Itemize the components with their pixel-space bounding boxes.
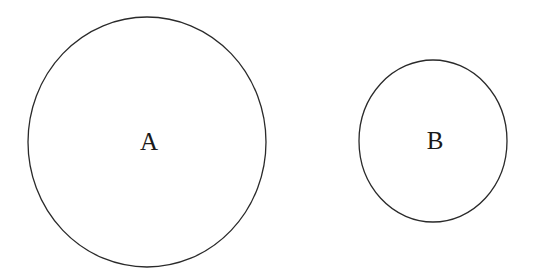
circle-a-label: A [140,129,158,154]
diagram-svg [0,0,533,278]
circle-b-label: B [427,128,444,153]
diagram-canvas: A B [0,0,533,278]
